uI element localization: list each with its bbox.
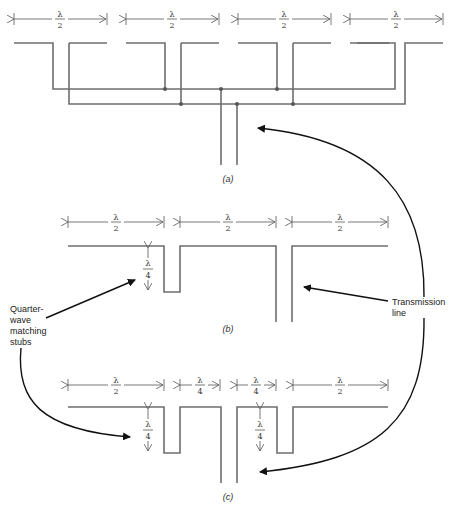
stub-dim-c-1: λ 4 bbox=[141, 409, 155, 451]
antenna-diagram: λ 2 λ 2 λ 2 λ 2 bbox=[0, 0, 460, 509]
dim-c-2: λ 4 bbox=[180, 376, 220, 396]
dim-den: 2 bbox=[113, 224, 118, 233]
dim-a-1: λ 2 bbox=[14, 10, 107, 30]
dim-num: λ bbox=[145, 420, 150, 429]
panel-b: λ 2 λ 2 λ 2 λ 4 (b) bbox=[68, 213, 388, 334]
panel-b-elements bbox=[68, 246, 388, 322]
dim-num: λ bbox=[253, 376, 258, 385]
callout-stubs-line3: matching bbox=[10, 326, 47, 336]
caption-a: (a) bbox=[223, 174, 234, 184]
dim-num: λ bbox=[113, 213, 118, 222]
dim-a-4: λ 2 bbox=[350, 10, 443, 30]
dim-num: λ bbox=[145, 259, 150, 268]
dim-num: λ bbox=[257, 420, 262, 429]
callout-transmission-line: Transmission line bbox=[258, 128, 445, 472]
caption-b: (b) bbox=[223, 324, 234, 334]
dim-num: λ bbox=[225, 213, 230, 222]
dim-den: 2 bbox=[337, 224, 342, 233]
dim-c-4: λ 2 bbox=[293, 376, 388, 396]
dim-den: 2 bbox=[113, 387, 118, 396]
dim-den: 4 bbox=[197, 387, 202, 396]
callout-stubs-line2: wave bbox=[9, 315, 31, 325]
panel-a: λ 2 λ 2 λ 2 λ 2 bbox=[14, 10, 443, 184]
panel-c: λ 2 λ 4 λ 4 λ 2 λ 4 bbox=[68, 376, 388, 502]
dim-num: λ bbox=[337, 376, 342, 385]
stub-dim-b: λ 4 bbox=[141, 248, 155, 290]
dim-den: 2 bbox=[337, 387, 342, 396]
dim-b-3: λ 2 bbox=[292, 213, 388, 233]
callout-tl-line1: Transmission bbox=[392, 297, 445, 307]
dim-den: 4 bbox=[145, 271, 150, 280]
dim-a-3: λ 2 bbox=[238, 10, 331, 30]
callout-tl-line2: line bbox=[392, 308, 406, 318]
dim-c-1: λ 2 bbox=[68, 376, 164, 396]
dim-num: λ bbox=[169, 10, 174, 19]
dim-den: 4 bbox=[145, 432, 150, 441]
callout-stubs-line1: Quarter- bbox=[10, 304, 44, 314]
dim-den: 2 bbox=[169, 21, 174, 30]
dim-den: 4 bbox=[257, 432, 262, 441]
stub-dim-c-2: λ 4 bbox=[253, 409, 267, 451]
pointer-arrow-icon bbox=[46, 280, 135, 318]
dim-den: 2 bbox=[57, 21, 62, 30]
dim-den: 2 bbox=[281, 21, 286, 30]
pointer-arrow-icon bbox=[304, 287, 388, 301]
dim-num: λ bbox=[281, 10, 286, 19]
dim-num: λ bbox=[57, 10, 62, 19]
panel-a-elements bbox=[14, 43, 443, 165]
caption-c: (c) bbox=[223, 492, 234, 502]
dim-num: λ bbox=[113, 376, 118, 385]
dim-b-2: λ 2 bbox=[180, 213, 276, 233]
dim-a-2: λ 2 bbox=[126, 10, 219, 30]
dim-num: λ bbox=[337, 213, 342, 222]
dim-num: λ bbox=[197, 376, 202, 385]
panel-c-elements bbox=[68, 407, 388, 483]
dim-den: 2 bbox=[393, 21, 398, 30]
dim-den: 2 bbox=[225, 224, 230, 233]
dim-c-3: λ 4 bbox=[237, 376, 276, 396]
dim-b-1: λ 2 bbox=[68, 213, 164, 233]
dim-num: λ bbox=[393, 10, 398, 19]
callout-stubs: Quarter- wave matching stubs bbox=[9, 280, 135, 437]
panel-a-dimensions: λ 2 λ 2 λ 2 λ 2 bbox=[14, 10, 443, 30]
callout-stubs-line4: stubs bbox=[10, 337, 32, 347]
dim-den: 4 bbox=[253, 387, 258, 396]
